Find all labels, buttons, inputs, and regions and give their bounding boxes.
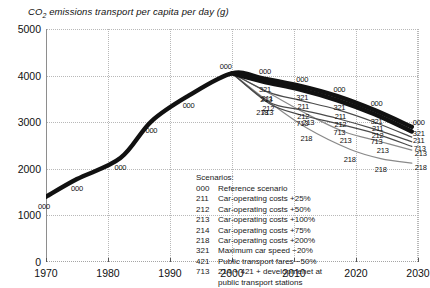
point-label-213: 213 xyxy=(260,95,272,104)
point-label-218: 218 xyxy=(300,133,312,142)
point-label-000: 000 xyxy=(71,184,83,193)
x-axis-tick-label: 1990 xyxy=(158,267,181,279)
legend-item-code: 211 xyxy=(196,194,218,204)
legend-item-214: 214Car-operating costs +75% xyxy=(196,226,322,236)
point-label-218: 218 xyxy=(344,155,356,164)
point-label-211: 211 xyxy=(298,102,309,111)
legend-item-code: 000 xyxy=(196,184,218,194)
legend-rows: 000Reference scenario211Car-operating co… xyxy=(196,184,322,288)
legend-heading: Scenarios: xyxy=(196,173,322,183)
legend-item-code: 321 xyxy=(196,246,218,256)
legend-item-000: 000Reference scenario xyxy=(196,184,322,194)
chart-title-main: CO xyxy=(28,6,42,17)
legend-item-label: Maximum car speed −20% xyxy=(218,246,313,256)
y-axis-tick-label: 4000 xyxy=(18,70,41,82)
point-label-218: 218 xyxy=(415,163,427,172)
legend-item-code: 214 xyxy=(196,226,218,236)
legend-item-label: Reference scenario xyxy=(218,184,287,194)
point-label-321: 321 xyxy=(259,84,271,93)
y-axis-tick-label: 2000 xyxy=(18,163,41,175)
point-label-000: 000 xyxy=(296,74,308,83)
point-label-000: 000 xyxy=(333,85,345,94)
y-axis-tick-label: 1000 xyxy=(18,209,41,221)
legend-item-label: Car-operating costs +200% xyxy=(218,236,315,246)
legend-item-713: 713214 + 421 + developmenet at xyxy=(196,267,322,277)
legend-item-211: 211Car-operating costs +25% xyxy=(196,194,322,204)
y-axis-tick-label: 3000 xyxy=(18,116,41,128)
point-label-000: 000 xyxy=(114,163,126,172)
legend-item-code: 213 xyxy=(196,215,218,225)
series-line-321 xyxy=(232,73,412,131)
x-axis-tick-label: 2030 xyxy=(406,267,429,279)
legend-item-code: 218 xyxy=(196,236,218,246)
legend-item-code: 421 xyxy=(196,257,218,267)
legend-item-label-continuation: public transport stations xyxy=(196,278,322,288)
legend-item-label: Car-operating costs +25% xyxy=(218,194,311,204)
point-label-000: 000 xyxy=(413,117,425,126)
legend-item-label: Car-operating costs +50% xyxy=(218,205,311,215)
point-label-218: 218 xyxy=(375,164,387,173)
legend-item-label: Car-operating costs +75% xyxy=(218,226,311,236)
point-label-000: 000 xyxy=(371,99,383,108)
legend-item-code: 713 xyxy=(196,267,218,277)
point-label-213: 213 xyxy=(377,145,389,154)
plot-area: 010002000300040005000 197019801990200020… xyxy=(46,29,418,262)
legend-item-218: 218Car-operating costs +200% xyxy=(196,236,322,246)
chart-title-rest: emissions transport per capita per day (… xyxy=(46,6,228,17)
x-axis-tick-label: 1980 xyxy=(96,267,119,279)
x-axis-tick-label: 2020 xyxy=(344,267,367,279)
point-label-213: 213 xyxy=(340,135,352,144)
x-axis-tick-mark xyxy=(418,258,419,262)
point-label-213: 213 xyxy=(302,117,314,126)
point-label-000: 000 xyxy=(259,67,271,76)
point-label-213: 213 xyxy=(415,149,427,158)
point-label-000: 000 xyxy=(145,126,157,135)
legend-item-label: 214 + 421 + developmenet at xyxy=(218,267,322,277)
y-axis-tick-label: 5000 xyxy=(18,23,41,35)
point-label-000: 000 xyxy=(220,62,232,71)
legend-item-321: 321Maximum car speed −20% xyxy=(196,246,322,256)
legend-item-421: 421Public transport fares −50% xyxy=(196,257,322,267)
x-axis-tick-label: 1970 xyxy=(34,267,57,279)
legend-item-code: 212 xyxy=(196,205,218,215)
legend-item-213: 213Car-operating costs +100% xyxy=(196,215,322,225)
legend-item-212: 212Car-operating costs +50% xyxy=(196,205,322,215)
point-label-000: 000 xyxy=(38,201,50,210)
point-label-000: 000 xyxy=(183,100,195,109)
point-label-321: 321 xyxy=(296,92,308,101)
legend: Scenarios: 000Reference scenario211Car-o… xyxy=(196,173,322,288)
legend-item-label: Car-operating costs +100% xyxy=(218,215,315,225)
point-label-218: 218 xyxy=(256,108,268,117)
legend-item-label: Public transport fares −50% xyxy=(218,257,317,267)
point-label-211: 211 xyxy=(335,111,346,120)
chart-title: CO2 emissions transport per capita per d… xyxy=(28,6,229,19)
